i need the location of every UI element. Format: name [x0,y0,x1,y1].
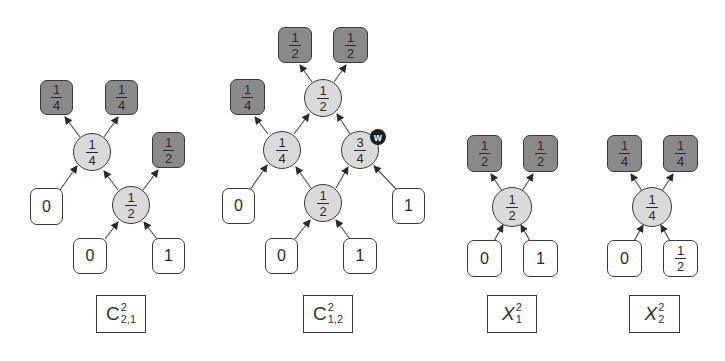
edge [521,225,530,241]
fraction: 14 [51,83,62,112]
gate-node: 12 [304,79,342,117]
fraction: 12 [289,31,300,60]
output-node: 14 [40,80,73,115]
input-node: 0 [607,240,642,277]
fraction: 34 [354,136,365,165]
edge [337,114,350,134]
output-node: 12 [523,135,558,172]
edge [296,167,311,188]
fraction: 12 [163,136,174,165]
edge [522,174,533,191]
fraction: 12 [535,139,546,168]
edge [661,225,670,241]
edge [105,222,118,239]
edge [104,171,118,190]
edge [336,220,350,239]
edge [295,220,310,239]
fraction: 14 [646,193,657,222]
edge [300,65,312,82]
fraction: 14 [675,139,686,168]
output-node: 14 [105,80,138,115]
edge [104,117,118,137]
gate-node: 14 [632,187,672,227]
fraction: 12 [125,191,136,220]
input-node: 0 [222,188,255,224]
fraction: 14 [619,139,630,168]
edge [374,166,397,190]
gate-node: 12 [492,187,532,227]
input-node: 12 [663,240,698,277]
fraction: 12 [675,244,686,273]
input-node: 1 [343,238,377,274]
gate-node: 12 [112,186,150,224]
edge [294,114,309,134]
diagram-label: X22 [629,295,680,333]
edge [491,174,502,191]
output-node: 12 [152,132,185,168]
edge [631,174,642,191]
edge [144,222,157,239]
edge [662,174,673,191]
w-badge-icon: w [370,129,386,145]
edge [143,170,158,190]
edge [336,167,348,188]
fraction: 14 [86,138,97,167]
edge [250,165,267,190]
edge [255,117,268,134]
output-node: 12 [278,27,312,63]
input-node: 1 [152,238,185,274]
input-node: 1 [523,240,558,277]
edge [60,166,77,190]
fraction: 14 [116,83,127,112]
gate-node: 12 [304,184,342,222]
fraction: 14 [242,83,253,112]
diagram-label: C21,2 [303,295,353,333]
output-node: 14 [230,79,265,115]
output-node: 14 [663,135,698,172]
input-node: 0 [467,240,502,277]
gate-node: 14 [73,133,111,171]
input-node: 1 [392,188,425,224]
output-node: 12 [333,27,368,63]
fraction: 12 [479,139,490,168]
fraction: 12 [345,31,356,60]
fraction: 12 [506,193,517,222]
fraction: 14 [276,136,287,165]
input-node: 0 [30,188,63,225]
fraction: 12 [317,189,328,218]
gate-node: 14 [263,131,301,169]
diagram-label: C22,1 [96,295,146,333]
output-node: 14 [607,135,642,172]
edge [494,225,503,241]
output-node: 12 [467,135,502,172]
fraction: 12 [317,84,328,113]
edge [334,65,346,82]
diagram-label: X21 [487,295,537,333]
input-node: 0 [265,238,298,274]
edge [634,225,643,241]
input-node: 0 [73,238,107,274]
edge [65,117,80,137]
